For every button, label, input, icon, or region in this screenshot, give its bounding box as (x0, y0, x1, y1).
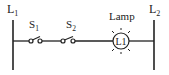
right-rail-subscript: 2 (156, 9, 160, 18)
right-rail-label: L (149, 2, 156, 16)
switch-s2: S2 (61, 18, 76, 43)
right-rail: L2 (149, 2, 160, 70)
svg-text:S2: S2 (66, 18, 76, 33)
lamp-label: Lamp (109, 10, 135, 22)
switch-s2-contact-right (71, 39, 75, 43)
switch-s1-subscript: 1 (35, 24, 39, 33)
svg-text:L1: L1 (7, 2, 18, 18)
left-rail: L1 (7, 2, 18, 70)
switch-s1-contact-right (38, 39, 42, 43)
lamp-inner-label: L1 (115, 36, 126, 47)
lamp: Lamp L1 (109, 10, 135, 54)
switch-s1: S1 (29, 18, 42, 43)
switch-s2-subscript: 2 (72, 24, 76, 33)
svg-text:L2: L2 (149, 2, 160, 18)
left-rail-label: L (7, 2, 14, 16)
ladder-diagram: L1 L2 S1 S2 Lamp (0, 0, 169, 75)
left-rail-subscript: 1 (14, 9, 18, 18)
svg-text:S1: S1 (29, 18, 39, 33)
